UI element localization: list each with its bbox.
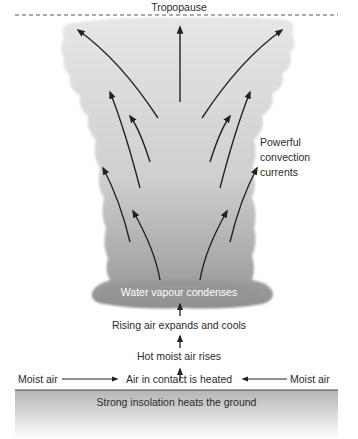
ground-label: Strong insolation heats the ground: [15, 396, 338, 408]
convection-currents-label: Powerful convection currents: [260, 135, 310, 180]
tropopause-label: Tropopause: [0, 1, 358, 13]
cloud-base-label: Water vapour condenses: [0, 286, 358, 298]
moist-air-left-label: Moist air: [18, 373, 58, 385]
step-rising-air: Rising air expands and cools: [0, 319, 358, 331]
moist-air-right-label: Moist air: [290, 373, 330, 385]
step-hot-moist-air: Hot moist air rises: [0, 350, 358, 362]
